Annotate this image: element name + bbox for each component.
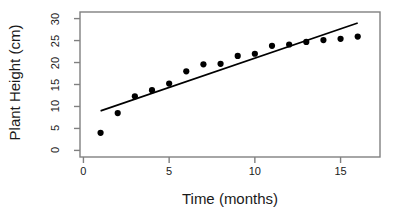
x-tick-label: 5: [158, 165, 180, 177]
data-point: [269, 43, 275, 49]
x-tick-label: 15: [330, 165, 352, 177]
data-point: [166, 81, 172, 87]
y-tick-label: 0: [48, 139, 62, 161]
data-point: [286, 41, 292, 47]
y-tick-label: 30: [48, 8, 62, 30]
data-point: [183, 68, 189, 74]
data-point: [97, 130, 103, 136]
plot-frame-rect: [80, 12, 380, 157]
x-tick-label: 0: [72, 165, 94, 177]
y-tick-label: 15: [48, 74, 62, 96]
x-tick-label: 10: [244, 165, 266, 177]
data-point: [235, 53, 241, 59]
plot-frame: [80, 12, 380, 157]
data-points: [97, 34, 360, 136]
y-tick-label: 25: [48, 30, 62, 52]
data-point: [252, 51, 258, 57]
y-tick-label: 20: [48, 52, 62, 74]
data-point: [115, 110, 121, 116]
data-point: [337, 36, 343, 42]
data-point: [320, 37, 326, 43]
fitted-line: [101, 23, 358, 111]
data-point: [200, 61, 206, 67]
axis-ticks: [74, 19, 341, 163]
data-point: [355, 34, 361, 40]
regression-line: [101, 23, 358, 111]
y-tick-label: 10: [48, 95, 62, 117]
data-point: [217, 61, 223, 67]
chart-figure: Plant Height (cm) Time (months) 05101520…: [0, 0, 396, 221]
data-point: [149, 87, 155, 93]
data-point: [132, 93, 138, 99]
y-tick-label: 5: [48, 117, 62, 139]
data-point: [303, 39, 309, 45]
